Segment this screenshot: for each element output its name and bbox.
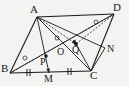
geometry-figure: A D B C M N P O Q — [0, 0, 129, 86]
label-C: C — [90, 70, 97, 81]
label-B: B — [1, 63, 8, 74]
side-DA — [37, 14, 114, 17]
label-Q: Q — [72, 45, 79, 55]
segment-CN — [91, 48, 105, 71]
label-O: O — [57, 47, 64, 57]
angle-marker-D-icon — [94, 20, 98, 24]
cevian-AN — [37, 17, 105, 48]
label-P: P — [40, 57, 46, 67]
label-M: M — [44, 74, 53, 84]
label-N: N — [107, 44, 114, 54]
label-A: A — [30, 4, 38, 15]
angle-marker-B-icon — [23, 56, 27, 60]
label-D: D — [113, 2, 121, 13]
side-AB — [10, 17, 37, 73]
